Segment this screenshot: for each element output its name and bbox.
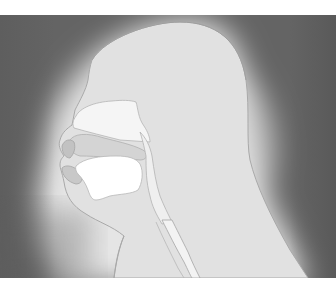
- bottom-left-shade: [0, 210, 90, 278]
- vocal-tract-illustration: [0, 15, 336, 278]
- diagram-figure: [0, 0, 336, 285]
- right-shade: [290, 15, 336, 278]
- diagram-panel: [0, 15, 336, 278]
